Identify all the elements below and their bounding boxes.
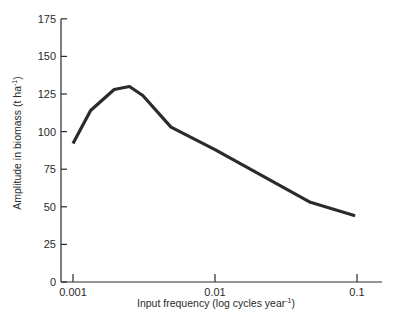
x-axis-title-close: ) (291, 297, 295, 309)
x-tick-label: 0.1 (349, 286, 364, 298)
x-axis-title: Input frequency (log cycles year-1) (137, 297, 295, 309)
y-tick-label: 25 (44, 238, 56, 250)
x-axis-title-main: Input frequency (log cycles year (137, 297, 286, 309)
series-layer (73, 87, 355, 216)
x-axis: 0.0010.010.1 (59, 274, 382, 298)
y-axis-title-close: ) (11, 76, 23, 80)
y-tick-label: 75 (44, 163, 56, 175)
y-axis: 0255075100125150175 (38, 13, 67, 288)
series-line (73, 87, 355, 216)
y-axis-title-main: Amplitude in biomass (t ha (11, 86, 23, 210)
x-tick-label: 0.001 (59, 286, 87, 298)
line-chart: 0255075100125150175 0.0010.010.1 Amplitu… (0, 0, 398, 326)
y-tick-label: 150 (38, 50, 56, 62)
y-tick-label: 0 (50, 276, 56, 288)
y-axis-title: Amplitude in biomass (t ha-1) (11, 76, 23, 209)
y-tick-label: 50 (44, 201, 56, 213)
y-tick-label: 100 (38, 126, 56, 138)
y-tick-label: 125 (38, 88, 56, 100)
y-tick-label: 175 (38, 13, 56, 25)
